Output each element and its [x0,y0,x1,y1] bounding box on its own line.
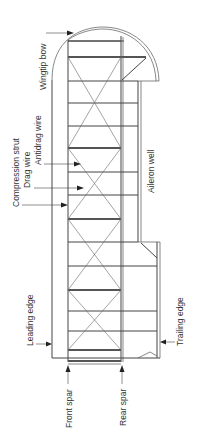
drag-wires [68,57,121,350]
trailing-edge-arrow [160,340,166,345]
label-antidrag-wire: Antidrag wire [33,115,43,165]
wingtip-bow-inner [68,29,156,81]
wing-diagram: Wingtip bow Compression strut Drag wire … [0,0,197,432]
tip-diagonal-brace [122,58,146,80]
wingtip-bow-arrow [67,31,74,36]
label-wingtip-bow: Wingtip bow [38,43,48,90]
label-leading-edge: Leading edge [25,294,35,346]
label-drag-wire: Drag wire [22,151,32,188]
antidrag-wire-arrow [74,162,81,167]
label-aileron-well: Aileron well [146,149,156,193]
label-front-spar: Front spar [64,389,74,428]
root-trailing-notch [138,352,157,358]
rear-spar-arrow [120,365,125,372]
leading-edge-arrow [46,342,52,347]
label-trailing-edge: Trailing edge [175,297,185,346]
front-spar-arrow [66,365,71,372]
label-compression-strut: Compression strut [11,137,21,207]
label-rear-spar: Rear spar [118,389,128,426]
aileron-corner-brace [141,243,157,258]
compression-strut-arrow [61,203,68,208]
drag-wire-arrow [77,186,84,191]
ribs [68,41,157,350]
